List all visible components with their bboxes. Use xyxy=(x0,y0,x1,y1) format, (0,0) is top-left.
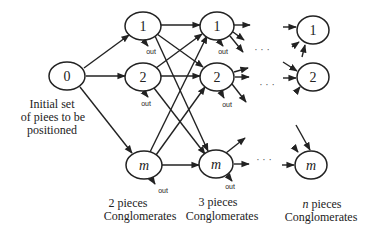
node-col2-1: 1 xyxy=(200,12,234,40)
svg-text:3 pieces: 3 pieces xyxy=(199,195,238,209)
svg-text:out: out xyxy=(146,48,156,55)
node-coln-m: m xyxy=(295,151,327,179)
edges-col1-to-col2 xyxy=(150,25,208,165)
svg-text:· · ·: · · · xyxy=(256,154,272,165)
ellipsis-markers: · · · · · · · · · xyxy=(254,44,275,165)
svg-text:Conglomerates: Conglomerates xyxy=(104,209,177,223)
svg-text:2 pieces: 2 pieces xyxy=(109,196,148,210)
svg-text:out: out xyxy=(141,100,151,107)
edges-coln-incoming xyxy=(282,27,310,165)
node-col2-m: m xyxy=(199,150,233,178)
edges-start-to-col1 xyxy=(80,35,132,153)
node-col1-2: 2 xyxy=(125,63,161,91)
svg-text:out: out xyxy=(218,48,228,55)
caption-col1: 2 pieces Conglomerates xyxy=(104,196,177,223)
svg-text:· · ·: · · · xyxy=(254,44,270,55)
svg-text:2: 2 xyxy=(310,70,317,85)
svg-text:positioned: positioned xyxy=(27,123,77,137)
svg-text:out: out xyxy=(225,183,235,190)
svg-text:out: out xyxy=(158,187,168,194)
svg-text:n pieces: n pieces xyxy=(303,197,342,211)
svg-text:m: m xyxy=(306,158,316,173)
svg-text:1: 1 xyxy=(310,23,317,38)
svg-text:1: 1 xyxy=(214,19,221,34)
svg-text:1: 1 xyxy=(140,19,147,34)
svg-text:· · ·: · · · xyxy=(259,79,275,90)
caption-coln: n pieces Conglomerates xyxy=(285,197,358,224)
pieces-label: pieces xyxy=(309,197,342,211)
svg-text:2: 2 xyxy=(140,70,147,85)
svg-text:out: out xyxy=(222,101,232,108)
svg-text:Conglomerates: Conglomerates xyxy=(285,210,358,224)
svg-text:m: m xyxy=(211,157,221,172)
caption-start: Initial set of piees to be positioned xyxy=(21,97,85,137)
node-col1-1: 1 xyxy=(125,12,161,40)
svg-text:0: 0 xyxy=(64,69,71,84)
node-start: 0 xyxy=(49,62,85,90)
svg-text:Conglomerates: Conglomerates xyxy=(186,209,259,223)
svg-text:m: m xyxy=(139,158,149,173)
node-col1-m: m xyxy=(126,151,162,179)
svg-text:2: 2 xyxy=(214,70,221,85)
svg-text:Initial set: Initial set xyxy=(30,97,76,111)
node-coln-2: 2 xyxy=(297,63,329,91)
svg-text:of piees to be: of piees to be xyxy=(21,110,85,124)
node-col2-2: 2 xyxy=(200,63,234,91)
conglomerate-network-diagram: out out out out out out · · · · · · · · … xyxy=(0,0,377,236)
caption-col2: 3 pieces Conglomerates xyxy=(186,195,259,223)
node-coln-1: 1 xyxy=(297,16,329,44)
